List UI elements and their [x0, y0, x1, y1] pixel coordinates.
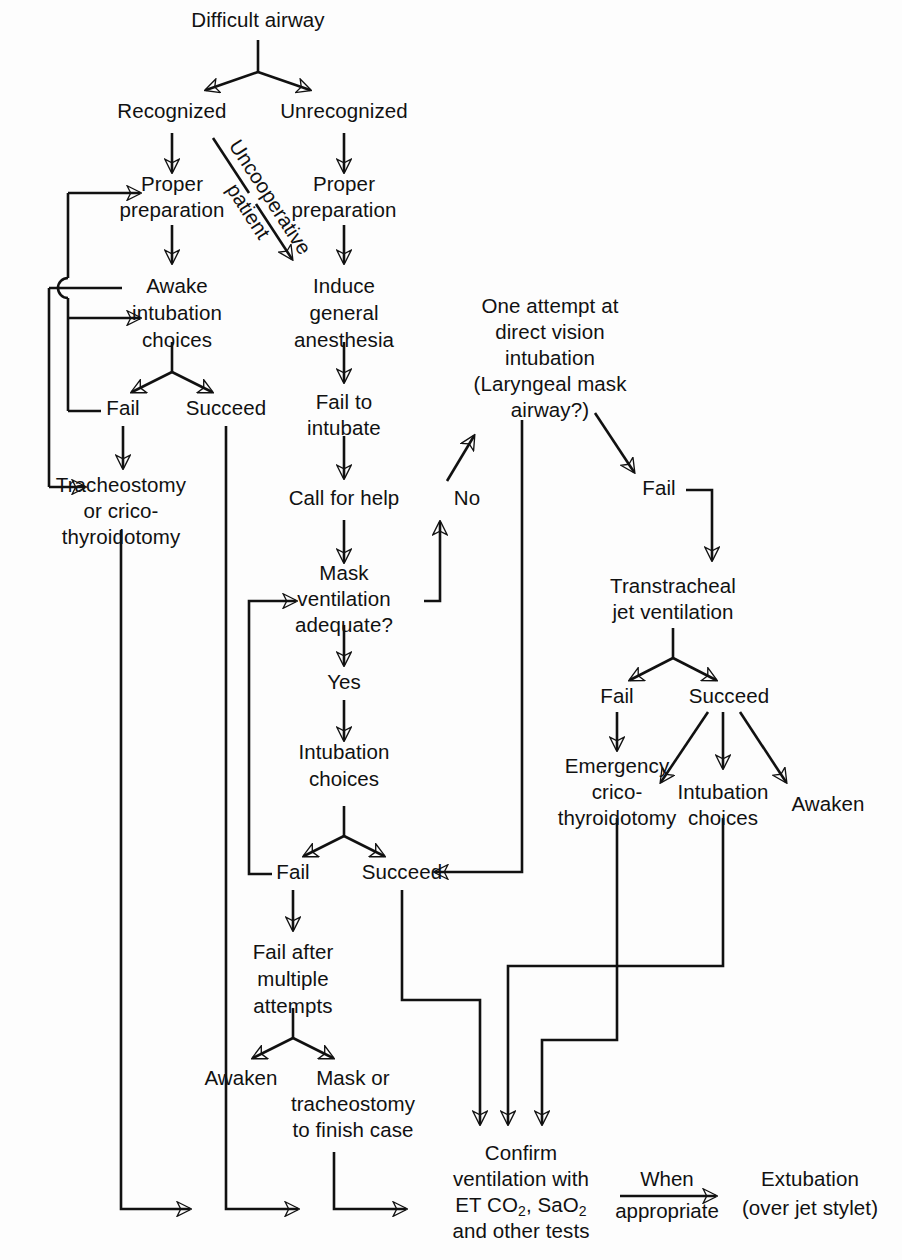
node-yes: Yes: [327, 670, 361, 693]
node-fail-one-attempt: Fail: [642, 476, 675, 499]
svg-text:Emergency: Emergency: [565, 754, 670, 777]
svg-text:crico-: crico-: [592, 780, 643, 803]
svg-text:tracheostomy: tracheostomy: [291, 1092, 416, 1115]
svg-text:choices: choices: [142, 328, 212, 351]
node-awaken-right: Awaken: [791, 792, 864, 815]
svg-text:Fail to: Fail to: [316, 390, 373, 413]
node-emergency-cricothyroidotomy: Emergency crico- thyroidotomy: [558, 754, 677, 829]
svg-text:jet ventilation: jet ventilation: [611, 600, 733, 623]
node-intubation-choices-middle: Intubation choices: [298, 740, 389, 790]
svg-text:appropriate: appropriate: [615, 1199, 719, 1222]
svg-text:choices: choices: [688, 806, 758, 829]
svg-text:One attempt at: One attempt at: [481, 294, 618, 317]
svg-text:preparation: preparation: [120, 198, 225, 221]
edge-tracheostomy-to-bottom: [121, 530, 190, 1209]
svg-text:adequate?: adequate?: [295, 613, 393, 636]
svg-text:ventilation: ventilation: [297, 587, 390, 610]
svg-text:When: When: [640, 1167, 694, 1190]
node-induce-general-anesthesia: Induce general anesthesia: [294, 274, 395, 351]
node-succeed-jet: Succeed: [689, 684, 769, 707]
svg-text:multiple: multiple: [257, 967, 328, 990]
flowchart-canvas: Difficult airway Recognized Unrecognized…: [0, 0, 902, 1260]
svg-text:attempts: attempts: [253, 994, 332, 1017]
svg-text:anesthesia: anesthesia: [294, 328, 395, 351]
svg-text:intubation: intubation: [505, 346, 595, 369]
node-no: No: [454, 486, 480, 509]
edge-mask-no-to-one-attempt: [424, 436, 474, 601]
node-fail-after-multiple-attempts: Fail after multiple attempts: [253, 940, 334, 1017]
node-succeed-middle: Succeed: [362, 860, 442, 883]
node-unrecognized: Unrecognized: [280, 99, 408, 122]
edge-succeed-jet-to-outcomes: [661, 712, 786, 782]
svg-text:or crico-: or crico-: [84, 499, 159, 522]
node-tracheostomy-cricothyroidotomy: Tracheostomy or crico- thyroidotomy: [56, 473, 187, 548]
svg-text:Mask: Mask: [319, 561, 369, 584]
node-mask-ventilation-adequate: Mask ventilation adequate?: [295, 561, 393, 636]
node-call-for-help: Call for help: [289, 486, 400, 509]
svg-text:Extubation: Extubation: [761, 1167, 859, 1190]
node-fail-jet: Fail: [600, 684, 633, 707]
svg-text:intubation: intubation: [132, 301, 222, 324]
edge-emergency-to-confirm: [542, 818, 617, 1124]
svg-text:Intubation: Intubation: [298, 740, 389, 763]
edge-difficult-to-branches: [206, 40, 310, 90]
edge-succeed-mid-to-confirm: [402, 890, 480, 1124]
node-fail-to-intubate: Fail to intubate: [307, 390, 381, 439]
node-fail-middle: Fail: [276, 860, 309, 883]
svg-text:Fail after: Fail after: [253, 940, 334, 963]
node-confirm-ventilation: Confirm ventilation with ET CO2, SaO2 an…: [452, 1141, 589, 1242]
svg-text:(Laryngeal mask: (Laryngeal mask: [473, 372, 627, 395]
node-extubation: Extubation (over jet stylet): [742, 1167, 878, 1219]
svg-text:general: general: [309, 301, 378, 324]
svg-text:direct vision: direct vision: [495, 320, 605, 343]
svg-text:to finish case: to finish case: [292, 1118, 413, 1141]
svg-text:Intubation: Intubation: [677, 780, 768, 803]
svg-text:thyroidotomy: thyroidotomy: [558, 806, 677, 829]
node-awaken-middle: Awaken: [204, 1066, 277, 1089]
svg-text:ventilation with: ventilation with: [453, 1167, 589, 1190]
svg-text:intubate: intubate: [307, 416, 381, 439]
node-awake-intubation-choices: Awake intubation choices: [132, 274, 222, 351]
svg-text:Transtracheal: Transtracheal: [610, 574, 736, 597]
svg-text:thyroidotomy: thyroidotomy: [62, 525, 181, 548]
node-proper-preparation-right: Proper preparation: [292, 172, 397, 221]
node-mask-or-tracheostomy: Mask or tracheostomy to finish case: [291, 1066, 416, 1141]
edge-one-attempt-to-fail: [595, 413, 634, 472]
node-succeed-awake: Succeed: [186, 396, 266, 419]
edge-fail-feedback-bus: [58, 193, 140, 411]
edge-intubation-to-outcomes: [304, 806, 384, 856]
edge-fail-mid-feedback-to-mask: [249, 601, 296, 874]
edge-mask-tracheostomy-to-bottom: [334, 1152, 406, 1209]
node-one-attempt-direct-vision: One attempt at direct vision intubation …: [473, 294, 627, 421]
edge-succeed-awake-to-bottom: [226, 426, 298, 1209]
node-difficult-airway: Difficult airway: [191, 8, 325, 31]
edge-transtracheal-to-outcomes: [630, 628, 716, 680]
svg-text:preparation: preparation: [292, 198, 397, 221]
svg-text:Proper: Proper: [141, 172, 203, 195]
node-recognized: Recognized: [117, 99, 226, 122]
edge-intubation-right-to-confirm: [508, 818, 723, 1124]
svg-text:Tracheostomy: Tracheostomy: [56, 473, 187, 496]
svg-text:Proper: Proper: [313, 172, 375, 195]
svg-text:airway?): airway?): [511, 398, 589, 421]
svg-text:and other tests: and other tests: [452, 1219, 589, 1242]
svg-text:Confirm: Confirm: [485, 1141, 557, 1164]
node-intubation-choices-right: Intubation choices: [677, 780, 768, 829]
difficult-airway-flowchart: Difficult airway Recognized Unrecognized…: [0, 0, 902, 1260]
edge-fail-to-transtracheal: [686, 490, 712, 560]
confirm-line3: ET CO2, SaO2: [455, 1193, 587, 1218]
node-proper-preparation-left: Proper preparation: [120, 172, 225, 221]
svg-text:(over jet stylet): (over jet stylet): [742, 1196, 878, 1219]
node-fail-awake: Fail: [106, 396, 139, 419]
svg-text:Mask or: Mask or: [316, 1066, 390, 1089]
node-transtracheal-jet-ventilation: Transtracheal jet ventilation: [610, 574, 736, 623]
svg-text:Awake: Awake: [146, 274, 208, 297]
svg-text:Induce: Induce: [313, 274, 375, 297]
svg-text:choices: choices: [309, 767, 379, 790]
